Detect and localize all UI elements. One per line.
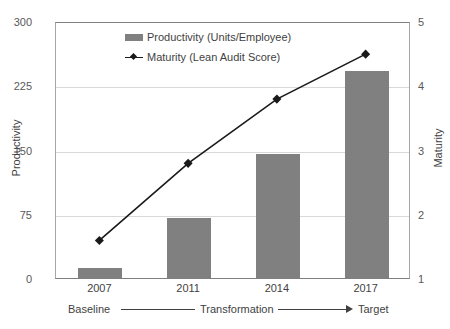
- phase-label-transformation: Transformation: [200, 302, 274, 316]
- x-axis-label-2007: 2007: [64, 283, 134, 294]
- y-axis-tick-300: 300: [0, 17, 32, 28]
- chart-legend: Productivity (Units/Employee) Maturity (…: [125, 28, 355, 68]
- x-axis-label-2014: 2014: [242, 283, 312, 294]
- x-axis-label-2011: 2011: [153, 283, 223, 294]
- bar-2011: [167, 218, 211, 278]
- y2-axis-tick-5: 5: [418, 17, 450, 28]
- y-axis-tick-75: 75: [0, 210, 32, 221]
- y-axis-tick-225: 225: [0, 81, 32, 92]
- legend-label-productivity: Productivity (Units/Employee): [147, 31, 291, 43]
- y2-axis-title: Maturity: [432, 108, 444, 188]
- arrow-right-icon: [346, 305, 353, 313]
- y2-axis-tick-1: 1: [418, 274, 450, 285]
- bar-2014: [256, 154, 300, 278]
- bar-2017: [345, 71, 389, 278]
- phase-rule-left: [121, 309, 195, 310]
- y2-axis-tick-4: 4: [418, 81, 450, 92]
- phase-rule-right: [278, 309, 346, 310]
- phase-annotation: Baseline Transformation Target: [55, 302, 410, 322]
- y-axis-tick-0: 0: [0, 274, 32, 285]
- legend-item-productivity: Productivity (Units/Employee): [125, 28, 355, 46]
- bar-swatch-icon: [125, 34, 143, 41]
- phase-label-baseline: Baseline: [68, 302, 110, 316]
- phase-label-target: Target: [358, 302, 389, 316]
- legend-label-maturity: Maturity (Lean Audit Score): [147, 51, 280, 63]
- bar-2007: [78, 268, 122, 278]
- x-axis-label-2017: 2017: [331, 283, 401, 294]
- y-axis-title: Productivity: [10, 108, 22, 188]
- line-marker-icon: [125, 52, 143, 62]
- chart-container: 300 225 150 75 0 5 4 3 2 1 Productivity …: [0, 0, 450, 329]
- y2-axis-tick-2: 2: [418, 210, 450, 221]
- legend-item-maturity: Maturity (Lean Audit Score): [125, 48, 355, 66]
